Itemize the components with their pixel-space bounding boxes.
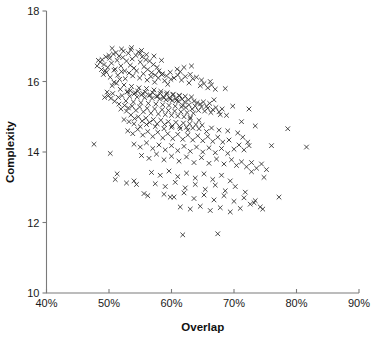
data-point-marker bbox=[260, 207, 265, 212]
data-point-marker bbox=[162, 126, 167, 131]
data-point-marker bbox=[144, 116, 149, 121]
data-point-marker bbox=[122, 117, 127, 122]
data-point-marker bbox=[124, 181, 129, 186]
data-point-marker bbox=[130, 74, 135, 79]
data-point-marker bbox=[219, 173, 224, 178]
data-point-marker bbox=[208, 79, 213, 84]
data-point-marker bbox=[243, 190, 248, 195]
data-point-marker bbox=[262, 175, 267, 180]
data-point-marker bbox=[239, 160, 244, 165]
data-point-marker bbox=[138, 124, 143, 129]
data-point-marker bbox=[175, 148, 180, 153]
x-tick-label-70%: 70% bbox=[223, 297, 245, 309]
data-point-marker bbox=[189, 95, 194, 100]
y-tick-label-16: 16 bbox=[27, 76, 39, 88]
data-point-marker bbox=[253, 198, 258, 203]
data-point-marker bbox=[175, 132, 180, 137]
data-point-marker bbox=[139, 100, 144, 105]
data-point-marker bbox=[122, 83, 127, 88]
data-point-marker bbox=[122, 69, 127, 74]
data-point-marker bbox=[96, 58, 101, 63]
data-point-marker bbox=[159, 118, 164, 123]
data-point-marker bbox=[159, 58, 164, 63]
data-point-marker bbox=[131, 100, 136, 105]
data-point-marker bbox=[102, 62, 107, 67]
data-point-marker bbox=[150, 134, 155, 139]
data-point-marker bbox=[163, 184, 168, 189]
data-point-marker bbox=[238, 206, 243, 211]
data-point-marker bbox=[115, 58, 120, 63]
data-point-marker bbox=[230, 104, 235, 109]
data-point-marker bbox=[117, 102, 122, 107]
data-point-marker bbox=[232, 147, 237, 152]
data-point-marker bbox=[187, 81, 192, 86]
data-point-marker bbox=[137, 86, 142, 91]
data-point-marker bbox=[194, 145, 199, 150]
data-point-marker bbox=[222, 162, 227, 167]
data-point-marker bbox=[192, 160, 197, 165]
data-point-marker bbox=[209, 83, 214, 88]
data-point-marker bbox=[188, 207, 193, 212]
data-point-marker bbox=[124, 59, 129, 64]
data-point-marker bbox=[166, 119, 171, 124]
data-point-marker bbox=[149, 170, 154, 175]
data-point-marker bbox=[180, 233, 185, 238]
data-point-marker bbox=[207, 101, 212, 106]
data-point-marker bbox=[124, 99, 129, 104]
plot-canvas: 101214161840%50%60%70%80%90%OverlapCompl… bbox=[0, 0, 378, 339]
data-point-marker bbox=[234, 163, 239, 168]
data-point-marker bbox=[185, 133, 190, 138]
data-point-marker bbox=[160, 136, 165, 141]
data-point-marker bbox=[200, 138, 205, 143]
data-point-marker bbox=[174, 120, 179, 125]
data-point-marker bbox=[181, 121, 186, 126]
data-point-marker bbox=[213, 87, 218, 92]
data-point-marker bbox=[92, 142, 97, 147]
data-point-marker bbox=[193, 176, 198, 181]
data-point-marker bbox=[215, 135, 220, 140]
data-point-marker bbox=[173, 180, 178, 185]
data-point-marker bbox=[118, 87, 123, 92]
data-points bbox=[92, 45, 309, 237]
data-point-marker bbox=[187, 102, 192, 107]
data-point-marker bbox=[128, 63, 133, 68]
data-point-marker bbox=[237, 143, 242, 148]
data-point-marker bbox=[235, 131, 240, 136]
data-point-marker bbox=[110, 91, 115, 96]
data-point-marker bbox=[218, 205, 223, 210]
data-point-marker bbox=[242, 196, 247, 201]
data-point-marker bbox=[112, 99, 117, 104]
data-point-marker bbox=[95, 64, 100, 69]
data-point-marker bbox=[285, 126, 290, 131]
data-point-marker bbox=[228, 210, 233, 215]
data-point-marker bbox=[134, 69, 139, 74]
data-point-marker bbox=[210, 139, 215, 144]
data-point-marker bbox=[182, 191, 187, 196]
y-tick-label-12: 12 bbox=[27, 217, 39, 229]
data-point-marker bbox=[229, 157, 234, 162]
data-point-marker bbox=[239, 119, 244, 124]
data-point-marker bbox=[108, 75, 113, 80]
x-tick-label-60%: 60% bbox=[160, 297, 182, 309]
y-tick-label-18: 18 bbox=[27, 5, 39, 17]
data-point-marker bbox=[232, 199, 237, 204]
data-point-marker bbox=[212, 98, 217, 103]
data-point-marker bbox=[162, 157, 167, 162]
data-point-marker bbox=[162, 122, 167, 127]
data-point-marker bbox=[140, 119, 145, 124]
data-point-marker bbox=[99, 67, 104, 72]
data-point-marker bbox=[223, 188, 228, 193]
data-point-marker bbox=[123, 76, 128, 81]
data-point-marker bbox=[144, 86, 149, 91]
data-point-marker bbox=[149, 111, 154, 116]
data-point-marker bbox=[144, 57, 149, 62]
data-point-marker bbox=[167, 169, 172, 174]
data-point-marker bbox=[198, 204, 203, 209]
data-point-marker bbox=[187, 122, 192, 127]
data-point-marker bbox=[160, 107, 165, 112]
x-tick-label-40%: 40% bbox=[35, 297, 57, 309]
data-point-marker bbox=[163, 148, 168, 153]
data-point-marker bbox=[153, 124, 158, 129]
data-point-marker bbox=[200, 123, 205, 128]
data-point-marker bbox=[182, 114, 187, 119]
